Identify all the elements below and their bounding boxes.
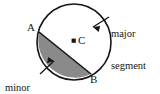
label-point-b: B	[90, 74, 97, 85]
label-major-segment-line1: major	[111, 29, 146, 40]
label-minor-segment: minor segment	[5, 61, 40, 94]
circle-segments-diagram: A B C major segment minor segment	[0, 0, 160, 94]
label-major-segment-line2: segment	[111, 61, 146, 72]
label-minor-segment-line1: minor	[5, 83, 40, 94]
major-segment-arrowhead-icon	[93, 26, 100, 32]
label-point-a: A	[27, 22, 35, 33]
centre-point-marker	[72, 39, 76, 43]
label-major-segment: major segment	[111, 7, 146, 93]
label-centre-c: C	[78, 35, 85, 46]
